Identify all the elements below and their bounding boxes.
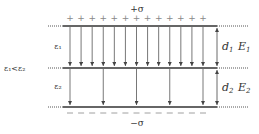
plus-charge: +	[66, 13, 74, 23]
d1-label: d1	[222, 40, 234, 54]
plus-charge: +	[166, 13, 174, 23]
E2-label: E2	[237, 81, 251, 95]
epsilon2-label: ε₂	[54, 82, 61, 91]
plus-charge: +	[177, 13, 185, 23]
plus-charge: +	[122, 13, 130, 23]
dielectric-capacitor-diagram: +σ +++++++++++++ −σ ε₁ ε₁<ε₂ ε₂ d1 E1 d2	[0, 0, 259, 134]
epsilon1-label: ε₁	[54, 42, 61, 51]
d2-label: d2	[222, 81, 234, 95]
plus-charge: +	[155, 13, 163, 23]
positive-charges-row: +++++++++++++	[66, 13, 207, 23]
bottom-charge-label: −σ	[130, 118, 144, 128]
permittivity-relation-label: ε₁<ε₂	[4, 64, 25, 73]
plus-charge: +	[188, 13, 196, 23]
plus-charge: +	[77, 13, 85, 23]
plus-charge: +	[88, 13, 96, 23]
plus-charge: +	[111, 13, 119, 23]
plus-charge: +	[144, 13, 152, 23]
plus-charge: +	[99, 13, 107, 23]
plus-charge: +	[199, 13, 207, 23]
E1-label: E1	[237, 40, 251, 54]
plus-charge: +	[133, 13, 141, 23]
field-lines-layer1	[70, 27, 203, 66]
field-lines-layer2	[70, 69, 203, 105]
plate-extensions	[48, 26, 249, 107]
